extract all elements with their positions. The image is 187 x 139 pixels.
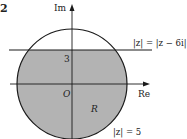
y-tick-3: 3	[64, 54, 70, 64]
re-axis-label: Re	[138, 89, 150, 99]
real-axis-arrow-icon	[143, 82, 150, 87]
argand-diagram: 2 Im Re O 3 R |z| = |z − 6i| |z| = 5	[0, 0, 187, 139]
region-label: R	[90, 104, 98, 114]
imaginary-axis-arrow-icon	[70, 4, 75, 11]
im-axis-label: Im	[54, 3, 67, 13]
line-equation-label: |z| = |z − 6i|	[133, 38, 187, 49]
question-number: 2	[0, 2, 8, 15]
circle-equation-label: |z| = 5	[113, 127, 141, 138]
origin-label: O	[63, 89, 71, 99]
